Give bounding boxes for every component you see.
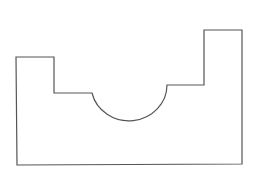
profile-outline-svg bbox=[0, 0, 258, 174]
diagram-canvas bbox=[0, 0, 258, 174]
profile-outline bbox=[16, 30, 242, 165]
